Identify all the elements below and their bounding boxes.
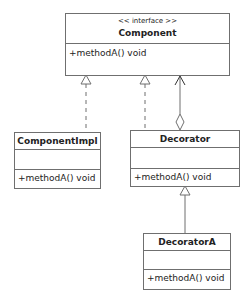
operation: +methodA() void bbox=[144, 273, 230, 284]
operation: +methodA() void bbox=[15, 173, 100, 184]
attributes-section bbox=[131, 148, 239, 169]
class-component[interactable]: << interface >> Component +methodA() voi… bbox=[65, 13, 230, 76]
attributes-section bbox=[144, 251, 230, 270]
class-componentimpl[interactable]: ComponentImpl +methodA() void bbox=[14, 132, 101, 189]
realization-decorator bbox=[140, 75, 150, 130]
class-name: DecoratorA bbox=[144, 237, 230, 248]
stereotype-label: << interface >> bbox=[66, 17, 229, 26]
class-name: Component bbox=[66, 28, 229, 39]
operation: +methodA() void bbox=[131, 172, 239, 183]
realization-componentimpl bbox=[81, 75, 91, 131]
operation: +methodA() void bbox=[66, 48, 229, 59]
attributes-section bbox=[15, 150, 100, 170]
class-decoratora[interactable]: DecoratorA +methodA() void bbox=[143, 233, 231, 290]
class-decorator[interactable]: Decorator +methodA() void bbox=[130, 130, 240, 187]
class-name: ComponentImpl bbox=[15, 136, 100, 147]
generalization-decoratora bbox=[180, 186, 190, 233]
class-name: Decorator bbox=[131, 134, 239, 145]
aggregation-decorator-component bbox=[175, 76, 185, 130]
